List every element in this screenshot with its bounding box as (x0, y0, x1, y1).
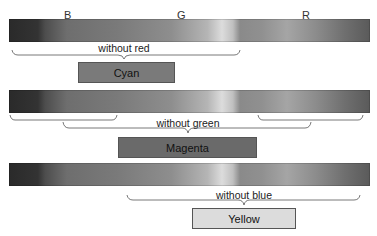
brace-without-red (12, 50, 240, 59)
brace-red-portion (258, 115, 363, 120)
brace-without-green (63, 122, 311, 133)
braces-overlay (0, 0, 377, 236)
brace-blue-portion (10, 115, 117, 120)
brace-without-blue (127, 195, 360, 205)
